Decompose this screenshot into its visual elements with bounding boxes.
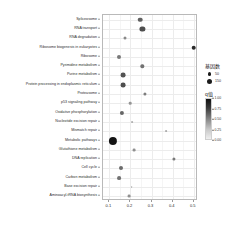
gridline-horizontal xyxy=(103,20,196,21)
y-axis-tick xyxy=(98,56,100,57)
data-point xyxy=(141,64,144,67)
data-point xyxy=(165,130,167,132)
y-axis-tick xyxy=(98,102,100,103)
y-axis-tick-label: Base excision repair xyxy=(64,184,97,188)
colorbar-tick xyxy=(212,129,214,130)
gridline-horizontal xyxy=(103,66,196,67)
y-axis-tick-label: Glutathione metabolism xyxy=(59,147,97,151)
size-legend-label: 50 xyxy=(215,72,219,76)
colorbar-wrap: 1.000.750.500.250.00 xyxy=(205,98,231,140)
y-axis-tick xyxy=(98,111,100,112)
y-axis-tick xyxy=(98,176,100,177)
y-axis-tick xyxy=(98,158,100,159)
gridline-horizontal xyxy=(103,122,196,123)
y-axis: SpliceosomeRNA transportRNA degradationR… xyxy=(0,14,100,200)
gridline-vertical xyxy=(173,15,174,199)
gridline-horizontal xyxy=(103,168,196,169)
y-axis-tick xyxy=(98,186,100,187)
y-axis-tick xyxy=(98,139,100,140)
y-axis-tick-label: p53 signaling pathway xyxy=(61,100,97,104)
colorbar-tick-label: 0.00 xyxy=(215,138,222,142)
colorbar-tick xyxy=(212,119,214,120)
y-axis-tick xyxy=(98,149,100,150)
x-axis-tick-label: 0.4 xyxy=(169,203,175,208)
y-axis-tick xyxy=(98,74,100,75)
y-axis-tick xyxy=(98,130,100,131)
gridline-horizontal xyxy=(103,85,196,86)
gridline-vertical xyxy=(109,15,110,199)
gridline-vertical xyxy=(152,15,153,199)
gridline-horizontal xyxy=(103,196,196,197)
y-axis-tick-label: RNA degradation xyxy=(69,35,97,39)
y-axis-tick-label: Purine metabolism xyxy=(67,72,97,76)
gridline-horizontal xyxy=(103,38,196,39)
gridline-horizontal xyxy=(103,150,196,151)
y-axis-tick-label: Aminoacyl-tRNA biosynthesis xyxy=(50,193,97,197)
colorbar-tick-label: 1.00 xyxy=(215,96,222,100)
data-point xyxy=(138,17,143,22)
x-axis-tick xyxy=(129,200,130,202)
x-axis-tick xyxy=(193,200,194,202)
x-axis-tick-label: 0.5 xyxy=(190,203,196,208)
data-point xyxy=(129,102,132,105)
colorbar-tick-label: 0.75 xyxy=(215,107,222,111)
y-axis-tick-label: Spliceosome xyxy=(76,17,97,21)
plot-panel xyxy=(102,14,197,200)
y-axis-tick-label: Mismatch repair xyxy=(71,128,97,132)
data-point xyxy=(117,55,121,59)
gridline-vertical-minor xyxy=(183,15,184,199)
y-axis-tick-label: Metabolic pathways xyxy=(65,138,97,142)
gridline-vertical-minor xyxy=(162,15,163,199)
y-axis-tick xyxy=(98,121,100,122)
data-point xyxy=(124,37,127,40)
y-axis-tick-label: Ribosome xyxy=(81,54,97,58)
gridline-horizontal xyxy=(103,131,196,132)
y-axis-tick xyxy=(98,167,100,168)
data-point xyxy=(119,166,123,170)
y-axis-tick xyxy=(98,93,100,94)
gridline-vertical-minor xyxy=(141,15,142,199)
y-axis-tick xyxy=(98,65,100,66)
colorbar-tick-label: 0.50 xyxy=(215,117,222,121)
x-axis-tick-label: 0.3 xyxy=(148,203,154,208)
data-point xyxy=(131,121,133,123)
y-axis-tick xyxy=(98,18,100,19)
data-point xyxy=(109,136,117,144)
legend-area: 基因数 50150 q值 1.000.750.500.250.00 xyxy=(204,62,247,162)
data-point xyxy=(144,92,147,95)
y-axis-tick-label: Pyrimidine metabolism xyxy=(60,63,97,67)
x-axis-tick-label: 0.1 xyxy=(106,203,112,208)
data-point xyxy=(172,158,175,161)
y-axis-tick-label: RNA transport xyxy=(74,26,97,30)
data-point xyxy=(121,73,126,78)
y-axis-tick-label: Cell cycle xyxy=(81,165,97,169)
y-axis-tick xyxy=(98,83,100,84)
data-point xyxy=(127,195,130,198)
gridline-horizontal xyxy=(103,48,196,49)
size-legend-label: 150 xyxy=(215,79,221,83)
x-axis-tick xyxy=(172,200,173,202)
data-point xyxy=(131,186,133,188)
gridline-vertical xyxy=(194,15,195,199)
gridline-horizontal xyxy=(103,94,196,95)
colorbar-tick xyxy=(212,98,214,99)
data-point xyxy=(121,82,126,87)
size-legend-entries: 50150 xyxy=(204,71,247,85)
size-legend-dot xyxy=(208,72,211,75)
gridline-vertical-minor xyxy=(120,15,121,199)
gridline-horizontal xyxy=(103,103,196,104)
y-axis-tick-label: Nucleotide excision repair xyxy=(55,119,97,123)
gridline-horizontal xyxy=(103,187,196,188)
data-point xyxy=(120,111,124,115)
size-legend-entry: 150 xyxy=(205,78,247,85)
data-point xyxy=(191,45,196,50)
size-legend-entry: 50 xyxy=(205,71,247,78)
x-axis: 0.10.20.30.40.5 xyxy=(102,200,197,214)
y-axis-tick xyxy=(98,195,100,196)
x-axis-tick xyxy=(108,200,109,202)
colorbar-tick-label: 0.25 xyxy=(215,128,222,132)
y-axis-tick-label: Oxidative phosphorylation xyxy=(55,110,97,114)
color-legend: q值 1.000.750.500.250.00 xyxy=(204,90,247,141)
size-legend-title: 基因数 xyxy=(205,62,247,69)
y-axis-tick-label: Carbon metabolism xyxy=(66,175,98,179)
